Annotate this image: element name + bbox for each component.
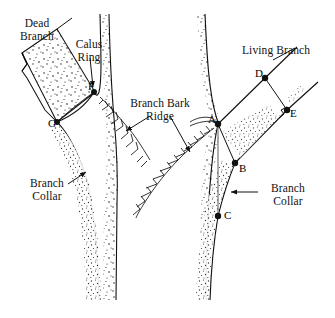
label-branch-collar-right: Branch Collar bbox=[261, 182, 315, 207]
point-label-B: B bbox=[239, 163, 246, 174]
point-label-G: G bbox=[48, 118, 56, 129]
right-trunk bbox=[196, 14, 235, 300]
label-living-branch: Living Branch bbox=[242, 44, 330, 57]
diagram-canvas: Dead Branch Calus Ring Branch Bark Ridge… bbox=[0, 0, 335, 318]
label-branch-bark-ridge: Branch Bark Ridge bbox=[116, 97, 204, 122]
label-calus-ring: Calus Ring bbox=[62, 38, 116, 63]
point-C-marker bbox=[215, 213, 221, 219]
label-dead-branch: Dead Branch bbox=[4, 17, 70, 42]
point-label-D: D bbox=[255, 68, 263, 79]
point-label-F: F bbox=[88, 81, 94, 92]
living-branch bbox=[218, 47, 318, 163]
point-label-E: E bbox=[290, 108, 297, 119]
label-branch-collar-left: Branch Collar bbox=[22, 177, 72, 202]
point-B-marker bbox=[232, 160, 238, 166]
point-label-A: A bbox=[208, 114, 216, 125]
point-label-C: C bbox=[224, 210, 231, 221]
